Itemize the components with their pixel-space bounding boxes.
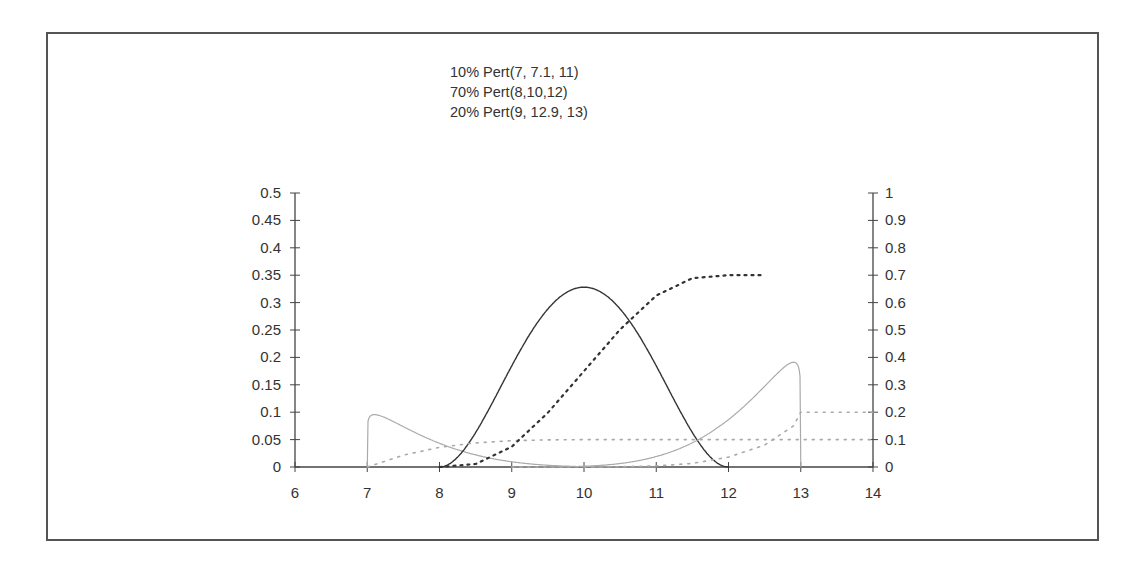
y-tick-label-right: 0.7 [885, 266, 906, 283]
y-tick-label-right: 0 [885, 458, 893, 475]
y-tick-label-left: 0.05 [252, 431, 281, 448]
y-tick-label-right: 0.5 [885, 321, 906, 338]
x-tick-label: 11 [648, 484, 664, 501]
x-tick-label: 12 [720, 484, 737, 501]
y-tick-label-left: 0.5 [260, 184, 281, 201]
x-tick-label: 7 [363, 484, 371, 501]
series-line-0 [367, 415, 656, 467]
y-tick-label-right: 0.3 [885, 376, 906, 393]
y-tick-label-right: 0.8 [885, 239, 906, 256]
y-tick-label-left: 0.25 [252, 321, 281, 338]
y-tick-label-left: 0.35 [252, 266, 281, 283]
series-line-2 [512, 362, 801, 467]
series-line-4 [440, 275, 765, 467]
y-tick-label-left: 0.45 [252, 211, 281, 228]
axes: 6789101112131400.050.10.150.20.250.30.35… [252, 184, 906, 501]
y-tick-label-right: 1 [885, 184, 893, 201]
y-tick-label-left: 0.4 [260, 239, 281, 256]
y-tick-label-left: 0.15 [252, 376, 281, 393]
y-tick-label-left: 0 [273, 458, 281, 475]
x-tick-label: 8 [435, 484, 443, 501]
x-tick-label: 13 [792, 484, 809, 501]
plot-area: 6789101112131400.050.10.150.20.250.30.35… [0, 0, 1145, 570]
x-tick-label: 6 [291, 484, 299, 501]
y-tick-label-right: 0.6 [885, 294, 906, 311]
y-tick-label-left: 0.1 [260, 403, 281, 420]
x-tick-label: 10 [576, 484, 593, 501]
y-tick-label-right: 0.1 [885, 431, 906, 448]
y-tick-label-left: 0.3 [260, 294, 281, 311]
x-tick-label: 14 [865, 484, 882, 501]
x-tick-label: 9 [508, 484, 516, 501]
y-tick-label-right: 0.9 [885, 211, 906, 228]
y-tick-label-right: 0.4 [885, 348, 906, 365]
y-tick-label-right: 0.2 [885, 403, 906, 420]
y-tick-label-left: 0.2 [260, 348, 281, 365]
series-group [367, 275, 873, 467]
